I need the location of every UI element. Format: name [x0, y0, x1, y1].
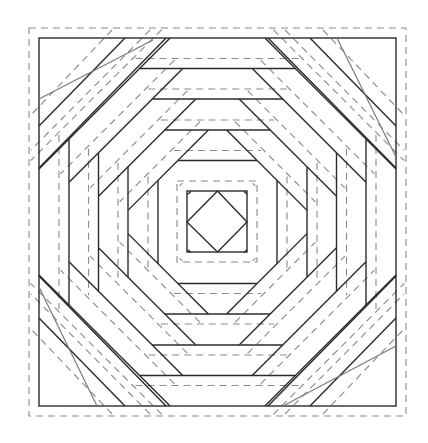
diagonal-strip-line: [39, 38, 170, 169]
diagonal-strip-line: [39, 275, 170, 406]
diagonal-strip-line: [239, 248, 336, 345]
diagonal-seam-line: [61, 60, 175, 174]
diagonal-strip-line: [99, 99, 196, 196]
seam-outline: [29, 28, 406, 416]
diagonal-strip-line: [265, 38, 396, 169]
diagonal-seam-line: [261, 60, 375, 174]
finished-outline: [39, 38, 396, 406]
diagonal-seam-line: [180, 183, 183, 186]
corner-guide-lines: [39, 38, 396, 406]
diagonal-strip-line: [188, 192, 191, 195]
center-square: [187, 191, 247, 252]
diagonal-seam-line: [235, 242, 315, 322]
diagonal-strip-line: [227, 234, 307, 314]
diagonal-strip-line: [227, 130, 307, 210]
diagonal-seam-line: [90, 91, 187, 188]
corner-diagonal-line: [310, 38, 396, 126]
diagonal-strip-line: [128, 130, 208, 210]
center-diamond: [187, 191, 247, 252]
corner-diagonal-line: [39, 38, 125, 126]
corner-diagonal-seam: [323, 30, 404, 115]
corner-diagonal-line: [39, 318, 125, 406]
diagonal-strip-line: [265, 275, 396, 406]
diagonal-strip-line: [128, 234, 208, 314]
diagonal-seam-line: [120, 242, 200, 322]
seam-allowance-lines: [29, 28, 406, 416]
diagonal-seam-line: [120, 122, 200, 202]
quilt-block-svg: [0, 0, 428, 443]
diagonal-seam-line: [235, 122, 315, 202]
corner-diagonal-seam: [285, 30, 404, 150]
diagonal-seam-line: [248, 91, 345, 188]
quilt-block-diagram: Pineapple log-cabin quilt block pattern: [0, 0, 428, 443]
piece-outline-lines: [39, 38, 396, 406]
diagonal-strip-line: [99, 248, 196, 345]
corner-diagonal-seam: [31, 329, 112, 414]
diagonal-strip-line: [252, 69, 366, 183]
diagonal-strip-line: [252, 262, 366, 376]
diagonal-strip-line: [69, 69, 183, 183]
diagonal-seam-line: [253, 258, 256, 261]
diagonal-strip-line: [239, 99, 336, 196]
corner-guide-line: [283, 346, 396, 406]
diagonal-seam-line: [253, 183, 256, 186]
corner-diagonal-seam: [31, 30, 150, 150]
corner-diagonal-seam: [323, 329, 404, 414]
diagonal-strip-line: [69, 262, 183, 376]
corner-diagonal-seam: [31, 30, 112, 115]
diagonal-seam-line: [90, 256, 187, 353]
corner-diagonal-seam: [31, 294, 150, 414]
diagonal-seam-line: [248, 256, 345, 353]
diagonal-seam-line: [180, 258, 183, 261]
corner-diagonal-line: [310, 318, 396, 406]
